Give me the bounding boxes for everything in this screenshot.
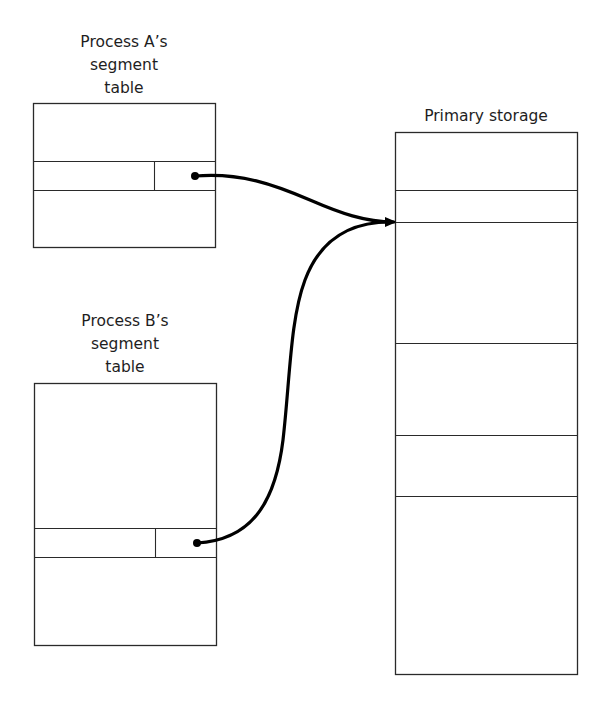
arrow-a-to-storage (195, 175, 394, 222)
diagram-canvas (0, 0, 605, 701)
process-a-segment-table (34, 104, 216, 248)
primary-storage-block (396, 133, 578, 675)
process-b-segment-table (35, 384, 217, 646)
arrow-b-to-storage (197, 222, 390, 543)
